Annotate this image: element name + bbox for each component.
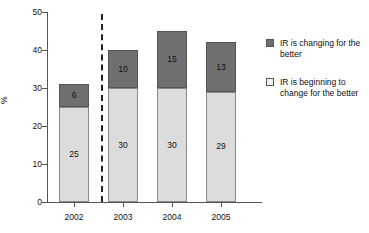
y-tick-30: 30: [10, 84, 42, 92]
bar-group-2005[interactable]: 13 29: [206, 42, 236, 202]
x-tick-label-2003: 2003: [100, 212, 146, 222]
x-tick-mark-2004: [172, 202, 173, 207]
x-tick-mark-2005: [221, 202, 222, 207]
y-tick-label-40: 40: [18, 46, 42, 54]
bar-group-2003[interactable]: 10 30: [108, 50, 138, 202]
bar-label-2004-light: 30: [167, 141, 176, 150]
y-tick-mark-0: [42, 202, 47, 203]
period-divider-dashed-line: [101, 14, 103, 202]
y-tick-label-10: 10: [18, 160, 42, 168]
legend-item-beginning[interactable]: IR is beginning to change for the better: [266, 77, 369, 98]
legend-swatch-light-icon: [266, 78, 274, 86]
x-axis-line: [47, 202, 262, 203]
x-tick-mark-2002: [74, 202, 75, 207]
bar-label-2002-dark: 6: [72, 91, 77, 100]
chart-legend: IR is changing for the better IR is begi…: [266, 38, 369, 116]
legend-label-beginning: IR is beginning to change for the better: [280, 77, 369, 98]
bar-segment-2004-changing[interactable]: 15: [157, 31, 187, 88]
y-tick-50: 50: [10, 8, 42, 16]
bar-label-2004-dark: 15: [167, 55, 176, 64]
y-axis-title: %: [0, 96, 9, 104]
bar-group-2002[interactable]: 6 25: [59, 84, 89, 202]
y-tick-20: 20: [10, 122, 42, 130]
x-tick-mark-2003: [123, 202, 124, 207]
y-tick-10: 10: [10, 160, 42, 168]
stacked-bar-chart: % 50 40 30 20 10 0 6 25: [0, 0, 369, 233]
y-tick-40: 40: [10, 46, 42, 54]
bar-label-2005-light: 29: [216, 142, 225, 151]
y-tick-label-0: 0: [18, 198, 42, 206]
bar-label-2005-dark: 13: [216, 63, 225, 72]
x-tick-label-2002: 2002: [51, 212, 97, 222]
x-tick-label-2004: 2004: [149, 212, 195, 222]
legend-item-changing[interactable]: IR is changing for the better: [266, 38, 369, 59]
y-tick-label-50: 50: [18, 8, 42, 16]
plot-area: 6 25 10 30 15 30 13: [47, 12, 243, 202]
y-tick-0: 0: [10, 198, 42, 206]
bar-label-2002-light: 25: [69, 150, 78, 159]
legend-label-changing: IR is changing for the better: [280, 38, 369, 59]
bar-segment-2004-beginning[interactable]: 30: [157, 88, 187, 202]
bar-segment-2002-changing[interactable]: 6: [59, 84, 89, 107]
y-tick-label-30: 30: [18, 84, 42, 92]
bar-segment-2005-changing[interactable]: 13: [206, 42, 236, 91]
legend-swatch-dark-icon: [266, 39, 274, 47]
bar-group-2004[interactable]: 15 30: [157, 31, 187, 202]
y-tick-label-20: 20: [18, 122, 42, 130]
bar-label-2003-light: 30: [118, 141, 127, 150]
bar-segment-2003-beginning[interactable]: 30: [108, 88, 138, 202]
bar-segment-2003-changing[interactable]: 10: [108, 50, 138, 88]
bar-segment-2005-beginning[interactable]: 29: [206, 92, 236, 202]
x-tick-label-2005: 2005: [198, 212, 244, 222]
bar-segment-2002-beginning[interactable]: 25: [59, 107, 89, 202]
bar-label-2003-dark: 10: [118, 65, 127, 74]
